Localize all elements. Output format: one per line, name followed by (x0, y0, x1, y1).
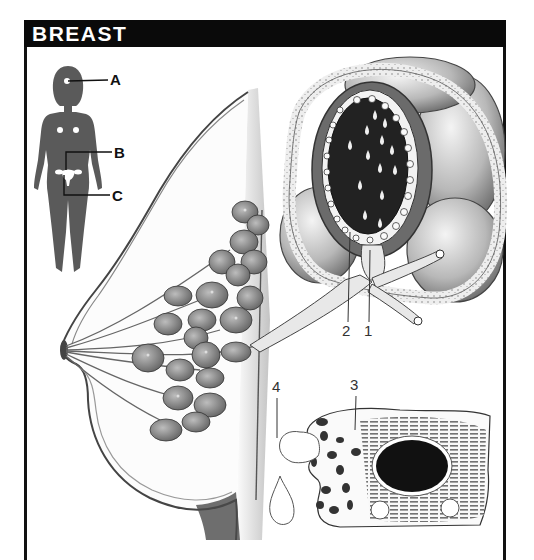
nucleus (376, 440, 448, 492)
label-4: 4 (272, 378, 280, 395)
label-1: 1 (364, 322, 372, 339)
lobule-detail (250, 57, 505, 352)
label-b: B (114, 144, 125, 161)
breast-dot-icon (57, 127, 63, 133)
female-silhouette (34, 66, 102, 272)
lipid-droplet-budding (280, 431, 320, 462)
label-3: 3 (350, 376, 358, 393)
lipid-droplet-free (270, 476, 294, 525)
breast-dot-icon (73, 127, 79, 133)
label-a: A (110, 71, 121, 88)
label-c: C (112, 187, 123, 204)
secretory-cell (270, 396, 490, 527)
label-2: 2 (342, 322, 350, 339)
